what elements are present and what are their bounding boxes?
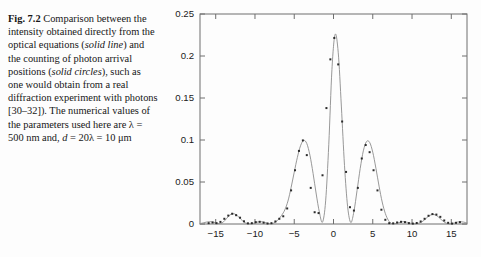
data-point-marker (239, 217, 241, 219)
data-point-marker (431, 213, 433, 215)
data-point-marker (263, 222, 265, 224)
data-point-marker (376, 189, 378, 191)
data-point-marker (274, 220, 276, 222)
data-point-marker (361, 157, 363, 159)
y-tick-label: 0.15 (175, 92, 194, 103)
data-point-marker (314, 211, 316, 213)
data-point-marker (392, 222, 394, 224)
data-point-marker (333, 37, 335, 39)
data-point-marker (380, 209, 382, 211)
y-tick-label: 0.05 (175, 176, 194, 187)
data-point-marker (345, 171, 347, 173)
data-point-marker (310, 187, 312, 189)
data-point-marker (318, 212, 320, 214)
data-point-marker (219, 221, 221, 223)
x-tick-label: −5 (289, 228, 300, 239)
x-tick-label: −10 (247, 228, 263, 239)
data-point-marker (286, 207, 288, 209)
data-point-marker (337, 63, 339, 65)
data-point-marker (416, 222, 418, 224)
data-point-marker (235, 214, 237, 216)
data-point-marker (208, 222, 210, 224)
data-point-marker (325, 107, 327, 109)
data-point-marker (396, 221, 398, 223)
y-tick-label: 0.1 (181, 134, 194, 145)
figure-caption: Fig. 7.2 Comparison between the intensit… (8, 12, 158, 144)
x-tick-label: 15 (446, 228, 457, 239)
data-point-marker (420, 220, 422, 222)
caption-segment-6: = 20λ = 10 μm (67, 132, 131, 143)
data-point-marker (459, 221, 461, 223)
data-point-marker (349, 206, 351, 208)
data-point-marker (329, 58, 331, 60)
caption-segment-3: solid circles (52, 66, 102, 77)
x-tick-label: 10 (407, 228, 418, 239)
data-point-marker (424, 218, 426, 220)
data-point-marker (267, 223, 269, 225)
data-point-marker (443, 219, 445, 221)
x-tick-label: 5 (370, 228, 375, 239)
data-point-marker (428, 215, 430, 217)
data-point-marker (400, 221, 402, 223)
data-point-marker (353, 210, 355, 212)
data-point-marker (412, 223, 414, 225)
data-point-marker (231, 213, 233, 215)
data-point-marker (408, 222, 410, 224)
diffraction-intensity-plot: 00.050.10.150.20.25 −15−10−5051015 (166, 2, 478, 252)
caption-segment-1: solid line (85, 39, 123, 50)
data-point-marker (294, 169, 296, 171)
data-point-marker (215, 222, 217, 224)
data-point-marker (306, 154, 308, 156)
data-point-marker (365, 144, 367, 146)
y-tick-label: 0.2 (181, 50, 194, 61)
data-point-marker (212, 221, 214, 223)
data-point-marker (259, 221, 261, 223)
y-tick-label: 0.25 (175, 8, 194, 19)
data-point-marker (404, 221, 406, 223)
data-point-marker (447, 222, 449, 224)
data-point-marker (255, 221, 257, 223)
caption-body: Comparison between the intensity obtaine… (8, 13, 158, 143)
x-tick-label: −15 (208, 228, 224, 239)
data-point-marker (227, 215, 229, 217)
data-point-marker (251, 222, 253, 224)
data-point-marker (298, 150, 300, 152)
plot-svg: 00.050.10.150.20.25 −15−10−5051015 (166, 2, 478, 252)
x-tick-label: 0 (331, 228, 336, 239)
data-point-marker (373, 169, 375, 171)
data-point-marker (455, 222, 457, 224)
data-point-marker (282, 215, 284, 217)
data-point-marker (270, 222, 272, 224)
data-point-marker (322, 174, 324, 176)
y-tick-label: 0 (189, 218, 194, 229)
data-point-marker (290, 189, 292, 191)
figure-number: Fig. 7.2 (8, 13, 41, 24)
data-point-marker (369, 151, 371, 153)
data-point-marker (384, 219, 386, 221)
figure-page: Fig. 7.2 Comparison between the intensit… (0, 0, 481, 257)
data-point-marker (278, 218, 280, 220)
data-point-marker (302, 139, 304, 141)
data-point-marker (388, 222, 390, 224)
data-point-marker (223, 218, 225, 220)
data-point-marker (247, 222, 249, 224)
data-point-marker (357, 187, 359, 189)
data-point-marker (451, 223, 453, 225)
data-point-marker (439, 216, 441, 218)
data-point-marker (243, 220, 245, 222)
data-point-marker (341, 121, 343, 123)
data-point-marker (435, 214, 437, 216)
